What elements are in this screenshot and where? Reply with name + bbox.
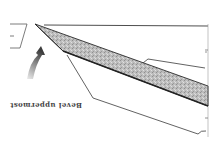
direction-arrow-icon — [27, 46, 45, 79]
bevel-caption: Bevel uppermost — [18, 101, 82, 110]
top-edge-line — [44, 25, 208, 26]
holder-lower-curl — [198, 131, 206, 134]
bevel-diagram — [0, 0, 215, 147]
blade — [35, 24, 208, 106]
right-edge-ticks — [205, 50, 208, 118]
